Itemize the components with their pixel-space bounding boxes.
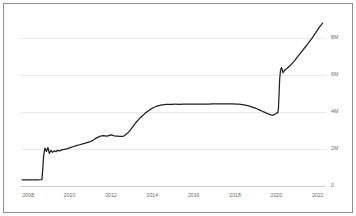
y-tick-label-6M: 6M: [331, 71, 338, 77]
gridlines-group: [20, 39, 326, 187]
line-chart-svg: 02M4M6M8M 200820102012201420162018202020…: [0, 0, 356, 216]
x-tick-labels-group: 20082010201220142016201820202022: [22, 192, 323, 198]
x-tick-label-2018: 2018: [229, 192, 241, 198]
data-series-group: [22, 23, 323, 180]
x-tick-label-2020: 2020: [271, 192, 283, 198]
x-tick-label-2014: 2014: [147, 192, 159, 198]
y-tick-label-8M: 8M: [331, 34, 338, 40]
y-tick-label-4M: 4M: [331, 108, 338, 114]
x-tick-label-2016: 2016: [188, 192, 200, 198]
x-tick-label-2022: 2022: [312, 192, 324, 198]
y-tick-label-0: 0: [331, 182, 334, 188]
y-tick-label-2M: 2M: [331, 145, 338, 151]
chart-plot-area: 02M4M6M8M 200820102012201420162018202020…: [0, 0, 356, 216]
x-tick-label-2008: 2008: [22, 192, 34, 198]
y-tick-labels-group: 02M4M6M8M: [331, 34, 338, 188]
x-tick-label-2012: 2012: [105, 192, 117, 198]
chart-screenshot: 02M4M6M8M 200820102012201420162018202020…: [0, 0, 356, 216]
series-line-value: [22, 23, 323, 180]
x-tick-label-2010: 2010: [64, 192, 76, 198]
